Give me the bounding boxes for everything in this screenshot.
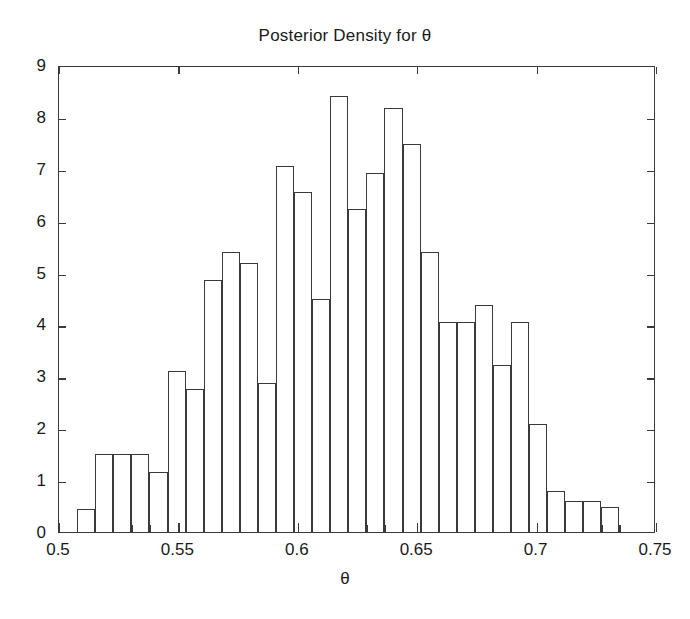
- y-tick-label: 4: [0, 315, 46, 335]
- y-tick-label: 0: [0, 523, 46, 543]
- histogram-bar: [294, 192, 312, 532]
- histogram-bar: [493, 365, 511, 532]
- histogram-bar: [95, 454, 113, 532]
- histogram-bar: [149, 472, 167, 532]
- y-tick-label: 8: [0, 108, 46, 128]
- histogram-bar: [583, 501, 601, 532]
- histogram-bar: [475, 305, 493, 532]
- histogram-bar: [403, 144, 421, 532]
- plot-area: [58, 66, 655, 533]
- histogram-bar: [421, 252, 439, 532]
- histogram-bar: [565, 501, 583, 532]
- histogram-bar: [258, 383, 276, 532]
- histogram-bar: [113, 454, 131, 532]
- histogram-bar: [131, 454, 149, 532]
- y-tick-label: 1: [0, 471, 46, 491]
- histogram-bar: [77, 509, 95, 532]
- histogram-bar: [511, 322, 529, 532]
- histogram-bar: [348, 209, 366, 532]
- y-tick-label: 3: [0, 367, 46, 387]
- histogram-bar: [312, 299, 330, 533]
- y-tick-label: 2: [0, 419, 46, 439]
- x-tick-label: 0.5: [46, 540, 70, 560]
- histogram-bar: [276, 166, 294, 532]
- bars-layer: [59, 67, 654, 532]
- x-axis-label: θ: [0, 569, 690, 589]
- page-title: Posterior Density for θ: [0, 26, 690, 46]
- histogram-bar: [439, 322, 457, 532]
- x-tick-label: 0.7: [524, 540, 548, 560]
- histogram-bar: [330, 96, 348, 532]
- x-tick-label: 0.6: [285, 540, 309, 560]
- y-tick-label: 7: [0, 160, 46, 180]
- histogram-bar: [601, 507, 619, 532]
- histogram-bar: [457, 322, 475, 532]
- x-tick-label: 0.75: [638, 540, 671, 560]
- y-tick-label: 9: [0, 56, 46, 76]
- y-tick-label: 5: [0, 264, 46, 284]
- x-axis-major-tick: [656, 67, 657, 74]
- histogram-figure: Posterior Density for θ 0.50.550.60.650.…: [0, 0, 690, 619]
- x-axis-major-tick: [656, 523, 657, 532]
- histogram-bar: [204, 280, 222, 532]
- x-tick-label: 0.55: [161, 540, 194, 560]
- histogram-bar: [384, 108, 402, 532]
- x-tick-label: 0.65: [400, 540, 433, 560]
- y-tick-label: 6: [0, 212, 46, 232]
- histogram-bar: [222, 252, 240, 532]
- histogram-bar: [240, 263, 258, 532]
- histogram-bar: [547, 491, 565, 533]
- histogram-bar: [366, 173, 384, 532]
- histogram-bar: [186, 389, 204, 532]
- histogram-bar: [529, 424, 547, 532]
- histogram-bar: [168, 371, 186, 532]
